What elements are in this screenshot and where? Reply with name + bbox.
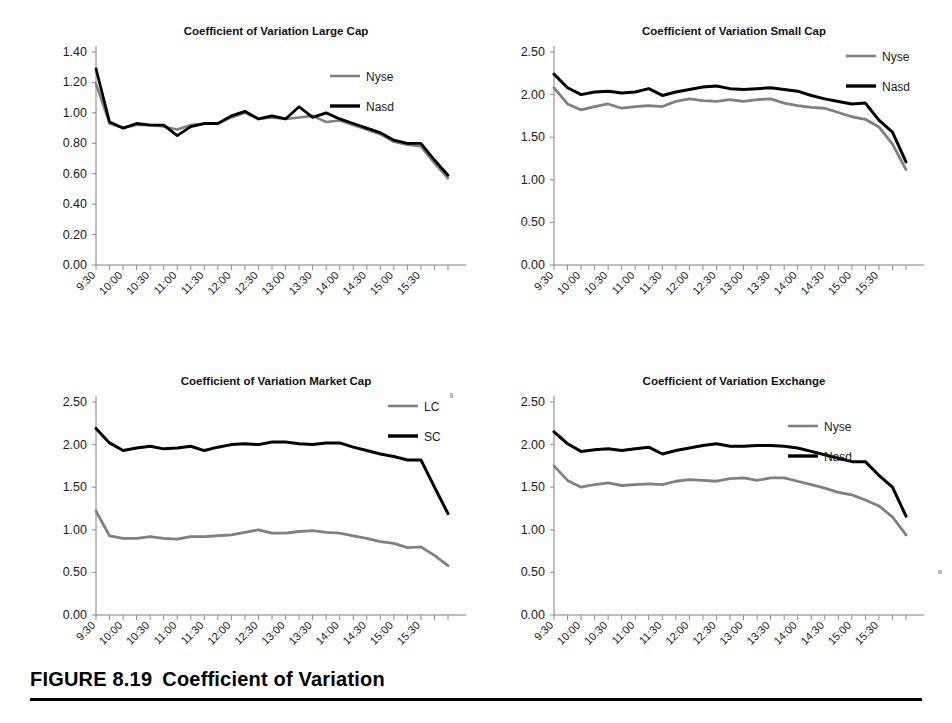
x-tick-label: 11:30	[178, 619, 205, 646]
x-tick-label: 10:30	[582, 269, 610, 297]
y-tick-label: 1.50	[63, 480, 87, 494]
x-tick-label: 12:30	[232, 269, 260, 297]
x-tick-label: 10:00	[555, 619, 583, 647]
x-tick-label: 11:00	[609, 619, 636, 646]
series-line-sc	[96, 428, 448, 513]
x-tick-label: 13:30	[286, 619, 314, 647]
x-tick-label: 9:30	[74, 269, 98, 293]
x-tick-label: 12:30	[690, 619, 718, 647]
x-tick-label: 14:00	[771, 269, 799, 297]
y-tick-label: 0.00	[63, 258, 87, 272]
x-tick-label: 15:30	[394, 619, 422, 647]
x-tick-label: 14:00	[771, 619, 799, 647]
legend-label-nyse: Nyse	[366, 70, 394, 84]
x-tick-label: 13:00	[717, 269, 745, 297]
chart-market-cap: Coefficient of Variation Market Cap0.000…	[30, 368, 480, 698]
x-tick-label: 11:00	[151, 269, 178, 296]
x-tick-label: 12:00	[663, 619, 691, 647]
x-tick-label: 11:30	[636, 269, 663, 296]
y-tick-label: 0.20	[63, 228, 87, 242]
chart-panel-small-cap: Coefficient of Variation Small Cap0.000.…	[488, 18, 938, 348]
y-tick-label: 0.60	[63, 167, 87, 181]
figure-caption-line: FIGURE 8.19Coefficient of Variation	[30, 668, 922, 691]
legend-label-lc: LC	[424, 400, 440, 414]
x-tick-label: 11:00	[609, 269, 636, 296]
chart-exchange: Coefficient of Variation Exchange0.000.5…	[488, 368, 938, 698]
x-tick-label: 15:30	[852, 269, 880, 297]
chart-large-cap: Coefficient of Variation Large Cap0.000.…	[30, 18, 480, 348]
legend-label-nyse: Nyse	[882, 50, 910, 64]
y-tick-label: 0.40	[63, 197, 87, 211]
legend-label-sc: SC	[424, 430, 441, 444]
figure-caption-number: FIGURE 8.19	[30, 668, 152, 690]
y-tick-label: 1.00	[521, 523, 545, 537]
chart-panel-exchange: Coefficient of Variation Exchange0.000.5…	[488, 368, 938, 698]
x-tick-label: 10:30	[124, 269, 152, 297]
scan-speck-right	[938, 570, 942, 574]
chart-title: Coefficient of Variation Market Cap	[181, 375, 371, 387]
y-tick-label: 2.00	[63, 438, 87, 452]
y-tick-label: 0.00	[521, 258, 545, 272]
x-tick-label: 13:30	[744, 619, 772, 647]
scan-speck	[450, 393, 453, 398]
x-tick-label: 13:00	[259, 619, 287, 647]
series-line-nyse	[554, 466, 906, 535]
y-tick-label: 2.00	[521, 88, 545, 102]
figure-caption: FIGURE 8.19Coefficient of Variation	[30, 668, 922, 701]
y-tick-label: 1.40	[63, 45, 87, 59]
x-tick-label: 10:00	[97, 269, 125, 297]
x-tick-label: 12:00	[205, 269, 233, 297]
x-tick-label: 9:30	[74, 619, 98, 643]
x-tick-label: 10:00	[97, 619, 125, 647]
x-tick-label: 15:00	[825, 269, 853, 297]
x-tick-label: 15:30	[852, 619, 880, 647]
x-tick-label: 13:30	[286, 269, 314, 297]
figure-page: Coefficient of Variation Large Cap0.000.…	[0, 0, 952, 723]
y-tick-label: 1.50	[521, 130, 545, 144]
chart-title: Coefficient of Variation Small Cap	[642, 25, 826, 37]
y-tick-label: 0.00	[521, 608, 545, 622]
chart-title: Coefficient of Variation Exchange	[643, 375, 826, 387]
y-tick-label: 0.50	[521, 565, 545, 579]
x-tick-label: 14:00	[313, 269, 341, 297]
x-tick-label: 10:30	[582, 619, 610, 647]
series-line-lc	[96, 511, 448, 566]
x-tick-label: 11:00	[151, 619, 178, 646]
legend-label-nasd: Nasd	[366, 100, 394, 114]
series-line-nasd	[96, 69, 448, 176]
y-tick-label: 1.50	[521, 480, 545, 494]
series-line-nyse	[554, 88, 906, 170]
y-tick-label: 0.00	[63, 608, 87, 622]
x-tick-label: 12:00	[205, 619, 233, 647]
x-tick-label: 14:30	[798, 269, 826, 297]
series-line-nasd	[554, 432, 906, 516]
chart-panel-market-cap: Coefficient of Variation Market Cap0.000…	[30, 368, 480, 698]
legend-label-nasd: Nasd	[882, 80, 910, 94]
x-tick-label: 15:00	[367, 619, 395, 647]
x-tick-label: 11:30	[178, 269, 205, 296]
y-tick-label: 2.50	[521, 45, 545, 59]
x-tick-label: 12:30	[690, 269, 718, 297]
chart-small-cap: Coefficient of Variation Small Cap0.000.…	[488, 18, 938, 348]
x-tick-label: 13:00	[259, 269, 287, 297]
x-tick-label: 12:30	[232, 619, 260, 647]
y-tick-label: 0.50	[63, 565, 87, 579]
legend-label-nyse: Nyse	[824, 420, 852, 434]
y-tick-label: 2.50	[521, 395, 545, 409]
x-tick-label: 11:30	[636, 619, 663, 646]
x-tick-label: 9:30	[532, 619, 556, 643]
x-tick-label: 10:00	[555, 269, 583, 297]
x-tick-label: 15:30	[394, 269, 422, 297]
x-tick-label: 9:30	[532, 269, 556, 293]
x-tick-label: 14:30	[340, 269, 368, 297]
y-tick-label: 0.50	[521, 215, 545, 229]
x-tick-label: 12:00	[663, 269, 691, 297]
x-tick-label: 10:30	[124, 619, 152, 647]
x-tick-label: 13:00	[717, 619, 745, 647]
caption-divider	[30, 698, 922, 701]
series-line-nyse	[96, 84, 448, 178]
y-tick-label: 0.80	[63, 136, 87, 150]
y-tick-label: 1.00	[63, 106, 87, 120]
x-tick-label: 14:00	[313, 619, 341, 647]
y-tick-label: 2.00	[521, 438, 545, 452]
